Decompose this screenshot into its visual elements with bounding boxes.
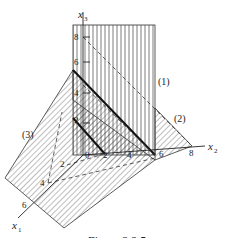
- svg-text:(1): (1): [158, 76, 170, 88]
- feasible-region-diagram: x 3 x 2 x 1 8 6 4 2 0 2 4 6 8 2 4 6 (1) …: [0, 0, 227, 238]
- svg-text:4: 4: [127, 150, 132, 160]
- svg-text:(3): (3): [22, 129, 34, 141]
- svg-text:6: 6: [74, 57, 79, 67]
- svg-text:2: 2: [60, 159, 65, 169]
- svg-text:8: 8: [189, 148, 194, 158]
- svg-text:4: 4: [40, 178, 45, 188]
- svg-text:x: x: [207, 140, 213, 152]
- svg-text:6: 6: [22, 200, 27, 210]
- svg-text:2: 2: [103, 150, 108, 160]
- svg-text:8: 8: [74, 32, 79, 42]
- svg-text:x: x: [77, 8, 83, 20]
- svg-text:2: 2: [74, 115, 79, 125]
- svg-text:6: 6: [159, 149, 164, 159]
- svg-text:(2): (2): [174, 113, 186, 125]
- svg-text:3: 3: [84, 15, 88, 23]
- svg-text:2: 2: [214, 147, 218, 155]
- svg-text:1: 1: [18, 226, 22, 234]
- svg-text:x: x: [11, 219, 17, 231]
- figure-caption: Figure 2.2.5: [88, 234, 146, 238]
- svg-text:0: 0: [85, 150, 90, 160]
- svg-text:4: 4: [74, 88, 79, 98]
